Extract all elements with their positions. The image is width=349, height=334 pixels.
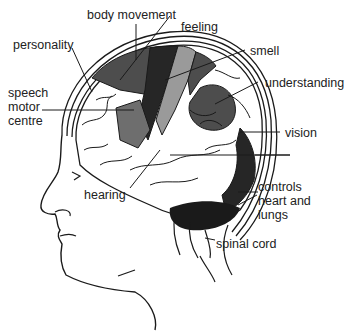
eye [72,172,80,180]
mouth [60,235,76,237]
label-controls-line-3: lungs [258,208,311,222]
label-hearing: hearing [84,188,126,202]
label-feeling: feeling [181,20,218,34]
label-personality: personality [13,38,73,52]
label-speech-line-2: motor [8,100,48,114]
label-understanding: understanding [265,76,344,90]
region-cerebellum [170,201,240,230]
nostril [55,210,70,216]
label-spinal-cord: spinal cord [216,237,276,251]
label-speech-line-3: centre [8,114,48,128]
label-smell: smell [250,44,279,58]
label-speech-line-1: speech [8,86,48,100]
label-speech-motor-centre: speech motor centre [8,86,48,128]
label-controls-heart-lungs: controls heart and lungs [258,180,311,222]
label-controls-line-1: controls [258,180,311,194]
label-body-movement: body movement [87,8,176,22]
label-controls-line-2: heart and [258,194,311,208]
label-vision: vision [285,126,317,140]
neck-line [118,270,135,276]
